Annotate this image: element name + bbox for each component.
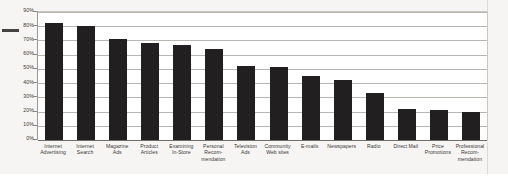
- y-axis-tick-label: 0%: [0, 136, 34, 141]
- bar: [141, 43, 159, 140]
- y-axis-tick-label: 20%: [0, 108, 34, 113]
- gridline: [38, 69, 487, 70]
- bar: [237, 66, 255, 140]
- bar: [430, 110, 448, 140]
- y-axis-tick-label: 40%: [0, 80, 34, 85]
- bar-chart: 90%80%70%60%50%40%30%20%10%0% InternetAd…: [0, 0, 508, 180]
- gridline: [38, 112, 487, 113]
- y-axis-tick-label: 80%: [0, 23, 34, 28]
- bar: [45, 23, 63, 140]
- x-axis-category-label: ProfessionalRecom-mendation: [450, 143, 490, 162]
- bar: [302, 76, 320, 140]
- bar: [109, 39, 127, 140]
- y-axis-tick-label: 60%: [0, 51, 34, 56]
- bar: [462, 112, 480, 140]
- category-label-line: mendation: [193, 156, 233, 162]
- page-canvas: 90%80%70%60%50%40%30%20%10%0% InternetAd…: [0, 0, 508, 180]
- y-axis-tick-label: 70%: [0, 37, 34, 42]
- y-axis-tick-label: 10%: [0, 122, 34, 127]
- y-axis-tick-label: 50%: [0, 65, 34, 70]
- bar: [366, 93, 384, 140]
- bar: [398, 109, 416, 140]
- gridline: [38, 83, 487, 84]
- gridline: [38, 97, 487, 98]
- gridline: [38, 40, 487, 41]
- gridline: [38, 140, 487, 141]
- y-axis-tick-label: 30%: [0, 94, 34, 99]
- gridline: [38, 12, 487, 13]
- gridline: [38, 126, 487, 127]
- bar: [334, 80, 352, 140]
- bar: [270, 67, 288, 140]
- category-label-line: Web sites: [258, 149, 298, 155]
- bar: [77, 26, 95, 140]
- gridline: [38, 55, 487, 56]
- y-axis-tick-label: 90%: [0, 8, 34, 13]
- bar: [173, 45, 191, 140]
- bar: [205, 49, 223, 140]
- gridline: [38, 26, 487, 27]
- plot-area: [37, 11, 488, 140]
- category-label-line: mendation: [450, 156, 490, 162]
